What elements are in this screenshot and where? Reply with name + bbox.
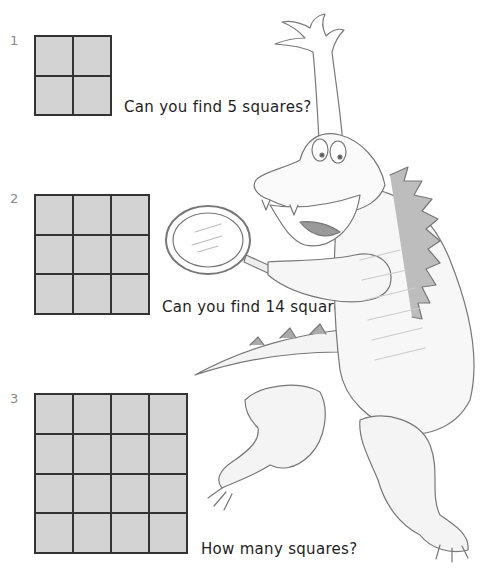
grid-cell (73, 434, 111, 474)
puzzle-number: 1 (10, 33, 18, 48)
grid-cell (73, 513, 111, 553)
grid-cell (73, 474, 111, 514)
grid-cell (35, 235, 73, 275)
grid-cell (35, 434, 73, 474)
grid-cell (73, 195, 111, 235)
grid-cell (35, 474, 73, 514)
grid-cell (111, 474, 149, 514)
right-leg (360, 416, 468, 551)
tail (195, 330, 340, 375)
grid-cell (73, 76, 111, 116)
left-leg (219, 385, 325, 488)
puzzle-number: 2 (10, 191, 18, 206)
grid-cell (73, 394, 111, 434)
grid-cell (35, 195, 73, 235)
grid-cell (111, 274, 149, 314)
grid-cell (111, 394, 149, 434)
grid-cell (73, 36, 111, 76)
grid-cell (35, 394, 73, 434)
grid-cell (111, 195, 149, 235)
square-grid-3x3 (34, 194, 150, 315)
grid-cell (73, 274, 111, 314)
grid-cell (111, 434, 149, 474)
grid-cell (35, 274, 73, 314)
alligator-illustration (160, 0, 500, 571)
eye-right (330, 141, 346, 163)
eye-left (312, 139, 328, 161)
grid-cell (35, 513, 73, 553)
grid-cell (111, 235, 149, 275)
grid-cell (35, 76, 73, 116)
grid-cell (35, 36, 73, 76)
puzzle-number: 3 (10, 391, 18, 406)
square-grid-2x2 (34, 35, 112, 116)
grid-cell (111, 513, 149, 553)
grid-cell (73, 235, 111, 275)
